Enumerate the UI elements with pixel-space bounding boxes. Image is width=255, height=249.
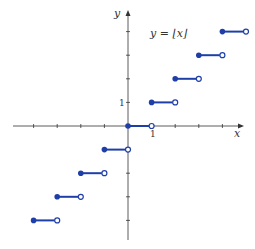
closed-endpoint-icon <box>125 123 131 129</box>
step-segment <box>54 194 83 200</box>
function-label: y = ⌊x⌋ <box>149 27 188 40</box>
y-axis-arrow-icon <box>126 10 131 16</box>
x-axis-label: x <box>234 127 241 140</box>
step-segment <box>102 147 131 153</box>
open-endpoint-icon <box>244 29 249 34</box>
step-segment <box>125 123 154 129</box>
closed-endpoint-icon <box>220 29 226 35</box>
step-segment <box>31 218 60 224</box>
open-endpoint-icon <box>102 171 107 176</box>
open-endpoint-icon <box>220 53 225 58</box>
step-segment <box>172 76 201 82</box>
step-segment <box>220 29 249 35</box>
open-endpoint-icon <box>149 124 154 129</box>
step-segment <box>196 52 225 58</box>
closed-endpoint-icon <box>54 194 60 200</box>
y-tick-label-1: 1 <box>119 98 125 108</box>
floor-function-graph: x y 1 1 y = ⌊x⌋ <box>0 0 255 249</box>
open-endpoint-icon <box>126 147 131 152</box>
closed-endpoint-icon <box>78 170 84 176</box>
closed-endpoint-icon <box>31 218 37 224</box>
open-endpoint-icon <box>78 194 83 199</box>
y-axis-label: y <box>113 7 121 20</box>
closed-endpoint-icon <box>102 147 108 153</box>
closed-endpoint-icon <box>172 76 178 82</box>
open-endpoint-icon <box>196 76 201 81</box>
step-segment <box>149 100 178 106</box>
open-endpoint-icon <box>173 100 178 105</box>
step-segment <box>78 170 107 176</box>
closed-endpoint-icon <box>196 52 202 58</box>
open-endpoint-icon <box>55 218 60 223</box>
x-tick-label-1: 1 <box>150 129 156 139</box>
closed-endpoint-icon <box>149 100 155 106</box>
